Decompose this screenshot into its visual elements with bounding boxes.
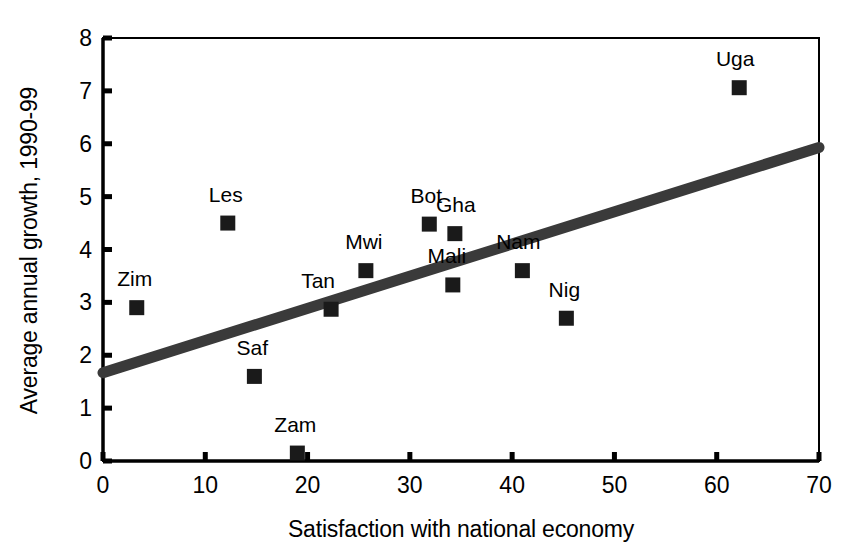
data-point-label: Zim — [117, 267, 152, 290]
data-point[interactable]: Uga — [716, 47, 755, 95]
data-point-label: Nig — [549, 278, 581, 301]
data-point[interactable]: Nig — [549, 278, 581, 326]
data-point-marker[interactable] — [422, 217, 437, 232]
y-tick-label: 3 — [79, 289, 92, 315]
y-tick-label: 6 — [79, 131, 92, 157]
data-point[interactable]: Nam — [496, 230, 540, 278]
data-point-marker[interactable] — [732, 80, 747, 95]
data-point-label: Gha — [436, 193, 476, 216]
y-tick-label: 8 — [79, 25, 92, 51]
data-point-label: Mali — [428, 244, 467, 267]
y-tick-label: 2 — [79, 342, 92, 368]
data-point-marker[interactable] — [358, 263, 373, 278]
data-point[interactable]: Les — [209, 183, 243, 231]
data-point-label: Nam — [496, 230, 540, 253]
data-point-marker[interactable] — [247, 369, 262, 384]
y-tick-label: 5 — [79, 184, 92, 210]
data-points: ZimLesSafZamTanMwiBotGhaMaliNamNigUga — [117, 47, 755, 460]
plot-area: 012345678010203040506070 ZimLesSafZamTan… — [0, 0, 865, 560]
data-point[interactable]: Mwi — [345, 230, 382, 278]
data-point[interactable]: Gha — [436, 193, 476, 241]
x-tick-label: 30 — [397, 472, 423, 498]
x-tick-label: 60 — [704, 472, 730, 498]
data-point-marker[interactable] — [515, 263, 530, 278]
data-point-label: Zam — [274, 413, 316, 436]
data-point-marker[interactable] — [559, 311, 574, 326]
x-tick-label: 10 — [192, 472, 218, 498]
y-tick-label: 1 — [79, 395, 92, 421]
y-tick-label: 0 — [79, 448, 92, 474]
data-point-label: Les — [209, 183, 243, 206]
x-tick-label: 40 — [499, 472, 525, 498]
data-point-label: Mwi — [345, 230, 382, 253]
data-point-label: Uga — [716, 47, 755, 70]
data-point-marker[interactable] — [447, 226, 462, 241]
x-tick-label: 70 — [806, 472, 832, 498]
y-tick-label: 4 — [79, 237, 92, 263]
scatter-chart-figure: Average annual growth, 1990-99 Satisfact… — [0, 0, 865, 560]
data-point-marker[interactable] — [290, 446, 305, 461]
data-point-label: Tan — [301, 269, 335, 292]
data-point[interactable]: Saf — [237, 336, 269, 384]
y-tick-label: 7 — [79, 78, 92, 104]
data-point[interactable]: Zim — [117, 267, 152, 315]
x-tick-label: 20 — [295, 472, 321, 498]
x-tick-label: 50 — [602, 472, 628, 498]
x-tick-label: 0 — [97, 472, 110, 498]
data-point-marker[interactable] — [445, 277, 460, 292]
data-point-marker[interactable] — [220, 216, 235, 231]
data-point-label: Saf — [237, 336, 269, 359]
data-point-marker[interactable] — [324, 302, 339, 317]
data-point-marker[interactable] — [129, 300, 144, 315]
